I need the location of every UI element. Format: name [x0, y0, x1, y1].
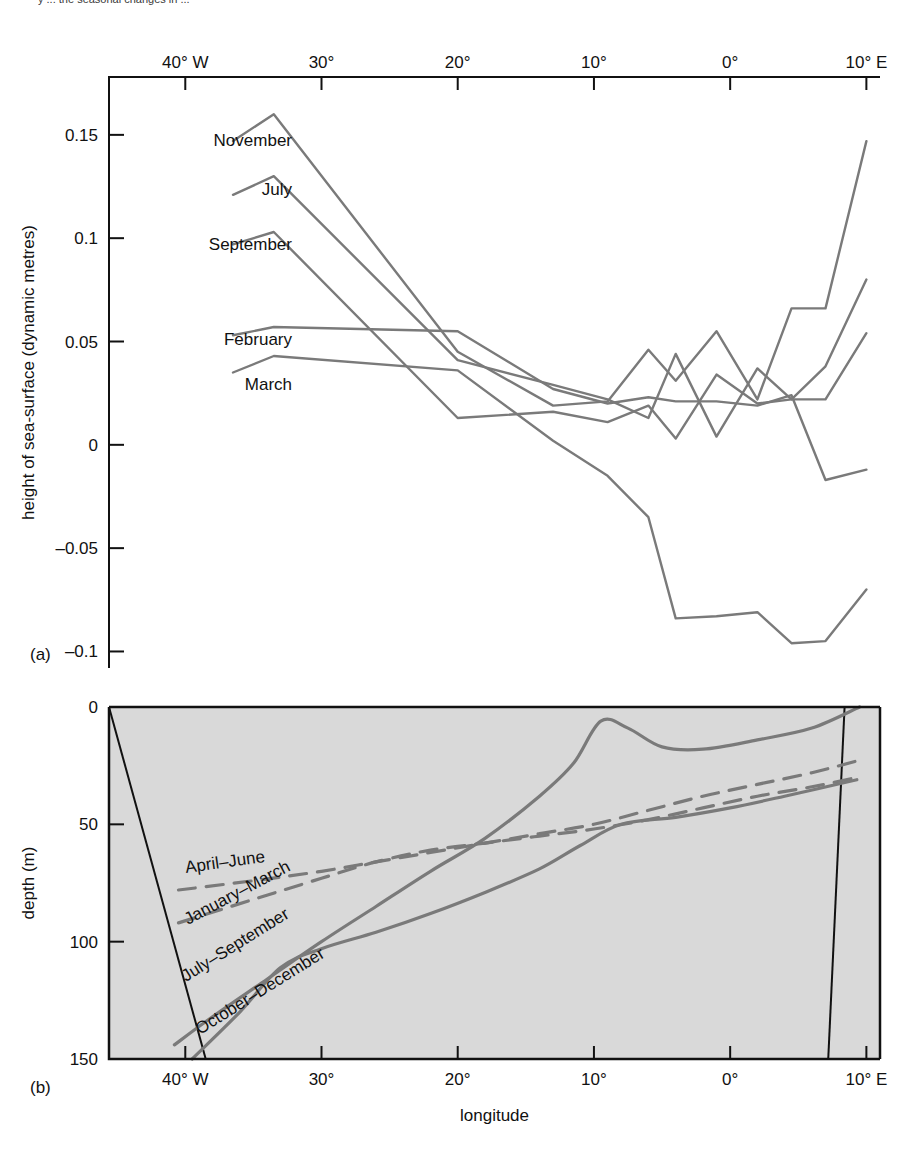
series-line — [233, 356, 866, 643]
x-tick-label: 0° — [722, 53, 738, 72]
figure-root: y ... the seasonal changes in ... (a) (b… — [0, 0, 912, 1149]
x-tick-label: 40° W — [162, 53, 208, 72]
y-tick-label: –0.05 — [55, 539, 98, 558]
cropped-header-text: y ... the seasonal changes in ... — [38, 0, 538, 7]
series-label: February — [224, 330, 293, 349]
series-label: September — [209, 235, 292, 254]
x-tick-label: 30° — [309, 53, 335, 72]
series-line — [233, 176, 866, 436]
x-tick-label: 40° W — [162, 1070, 208, 1089]
panel-b-xlabel: longitude — [460, 1106, 529, 1125]
series-label: July — [262, 180, 293, 199]
y-tick-label: 0.05 — [65, 333, 98, 352]
panel-a-ylabel: height of sea-surface (dynamic metres) — [19, 225, 38, 520]
series-line — [233, 114, 866, 405]
panel-b-chart: 40° W30°20°10°0°10° E050100150longituded… — [19, 698, 887, 1125]
x-tick-label: 10° — [581, 53, 607, 72]
y-tick-label: 100 — [70, 933, 98, 952]
y-tick-label: 150 — [70, 1050, 98, 1069]
y-tick-label: 0 — [89, 436, 98, 455]
x-tick-label: 20° — [445, 53, 471, 72]
panel-a-tag: (a) — [30, 645, 51, 665]
x-tick-label: 10° E — [845, 1070, 887, 1089]
series-label: March — [245, 375, 292, 394]
x-tick-label: 0° — [722, 1070, 738, 1089]
panel-a-chart: 40° W30°20°10°0°10° E0.150.10.050–0.05–0… — [19, 53, 887, 668]
figure-canvas: 40° W30°20°10°0°10° E0.150.10.050–0.05–0… — [0, 0, 912, 1149]
panel-b-ylabel: depth (m) — [19, 847, 38, 920]
x-tick-label: 30° — [309, 1070, 335, 1089]
panel-b-tag: (b) — [30, 1078, 51, 1098]
y-tick-label: 0 — [89, 698, 98, 717]
x-tick-label: 10° — [581, 1070, 607, 1089]
y-tick-label: 50 — [79, 815, 98, 834]
y-tick-label: –0.1 — [65, 642, 98, 661]
x-tick-label: 10° E — [845, 53, 887, 72]
y-tick-label: 0.15 — [65, 126, 98, 145]
series-line — [233, 232, 866, 439]
x-tick-label: 20° — [445, 1070, 471, 1089]
y-tick-label: 0.1 — [74, 229, 98, 248]
series-label: November — [214, 131, 293, 150]
